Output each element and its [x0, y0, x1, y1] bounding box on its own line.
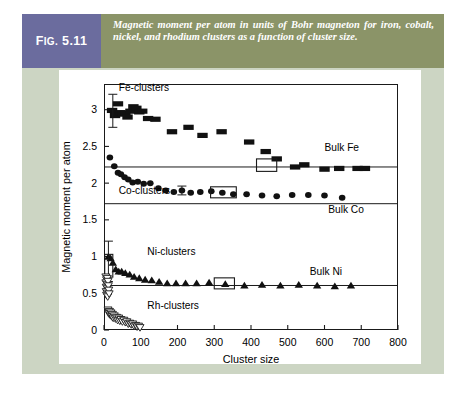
fe-data-point	[290, 164, 300, 169]
ni-data-point	[258, 281, 266, 288]
x-tick-label-1: 100	[132, 336, 150, 348]
co-data-point	[187, 190, 194, 196]
ni-data-point	[192, 280, 200, 287]
x-tick-label-3: 300	[205, 336, 223, 348]
co-data-point	[305, 192, 312, 198]
co-clusters-label: Co-clusters	[119, 185, 171, 196]
x-tick-label-7: 700	[352, 336, 370, 348]
fe-data-point	[299, 162, 309, 167]
x-tick-label-4: 400	[242, 336, 260, 348]
bulk-co-label: Bulk Co	[328, 204, 364, 215]
co-data-point	[339, 195, 346, 201]
ni-data-point	[205, 279, 213, 286]
figure-5-11: FIG. 5.11 Magnetic moment per atom in un…	[0, 0, 466, 395]
x-axis-title: Cluster size	[223, 353, 279, 365]
ni-data-point	[163, 280, 171, 287]
fe-data-point	[167, 129, 177, 134]
x-tick-label-6: 600	[316, 336, 334, 348]
fe-data-point	[197, 133, 207, 138]
fe-data-point	[244, 139, 254, 144]
fe-data-point	[150, 117, 160, 122]
ni-data-point	[155, 278, 163, 285]
fe-data-point	[360, 166, 370, 171]
fe-data-point	[334, 166, 344, 171]
fe-data-point	[122, 114, 132, 119]
ni-data-point	[172, 280, 180, 287]
co-data-point	[289, 192, 296, 198]
y-tick-label-5: 2.5	[82, 140, 97, 152]
fe-data-point	[137, 109, 147, 114]
co-data-point	[273, 193, 280, 199]
x-tick-label-0: 0	[101, 336, 107, 348]
ni-data-point	[181, 280, 189, 287]
co-data-point	[135, 179, 142, 185]
fe-data-point	[113, 101, 123, 106]
ni-clusters-label: Ni-clusters	[147, 246, 195, 257]
co-data-point	[243, 191, 250, 197]
co-data-point	[219, 190, 226, 196]
co-data-point	[321, 193, 328, 199]
ni-data-point	[221, 280, 229, 287]
fe-data-point	[261, 149, 271, 154]
bulk-fe-label: Bulk Fe	[325, 142, 360, 153]
y-tick-label-3: 1.5	[82, 213, 97, 225]
ni-data-point	[148, 277, 156, 284]
fe-data-point	[183, 125, 193, 130]
co-data-point	[171, 189, 178, 195]
co-data-point	[230, 191, 237, 197]
fe-data-point	[319, 167, 329, 172]
fe-data-point	[216, 129, 226, 134]
y-tick-label-0: 0	[91, 324, 97, 336]
co-data-point	[107, 154, 114, 160]
y-tick-label-6: 3	[91, 103, 97, 115]
y-axis-title: Magnetic moment per atom	[60, 141, 72, 272]
x-tick-label-8: 800	[389, 336, 407, 348]
y-tick-label-2: 1	[91, 250, 97, 262]
co-data-point	[111, 163, 118, 169]
x-tick-label-2: 200	[169, 336, 187, 348]
ni-data-point	[295, 281, 303, 288]
y-tick-label-4: 2	[91, 177, 97, 189]
co-data-point	[259, 193, 266, 199]
co-data-point	[208, 188, 215, 194]
bulk-ni-label: Bulk Ni	[310, 266, 342, 277]
chart-canvas: 010020030040050060070080000.511.522.53Cl…	[0, 0, 466, 395]
rh-clusters-label: Rh-clusters	[147, 300, 199, 311]
fe-clusters-label: Fe-clusters	[119, 82, 169, 93]
x-tick-label-5: 500	[279, 336, 297, 348]
co-data-point	[197, 189, 204, 195]
y-tick-label-1: 0.5	[82, 287, 97, 299]
